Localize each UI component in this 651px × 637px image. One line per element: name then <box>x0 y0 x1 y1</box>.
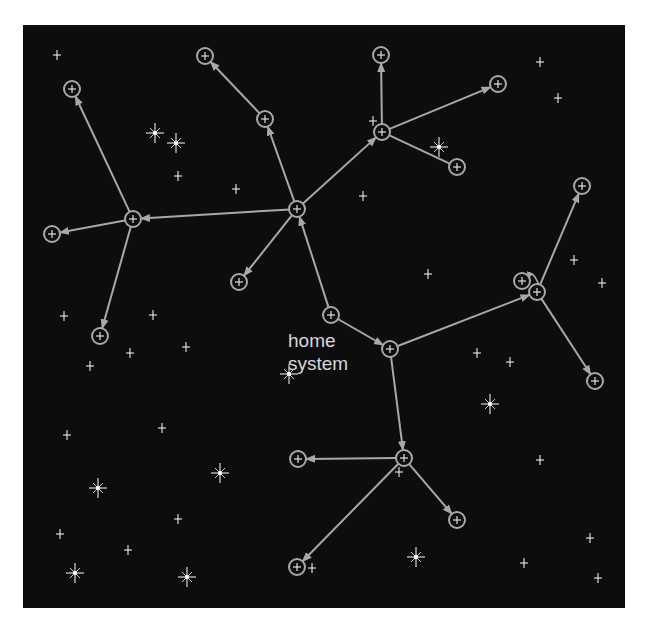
small-star-icon <box>598 278 606 288</box>
route-link-n9-n11 <box>388 87 490 129</box>
route-link-n13-n14 <box>397 295 530 347</box>
system-node[interactable] <box>514 273 530 289</box>
small-star-icon <box>395 467 403 477</box>
bright-star-icon <box>407 547 425 567</box>
route-link-n18-n19 <box>306 458 397 459</box>
small-star-icon <box>424 269 432 279</box>
bright-star-icon <box>167 133 185 153</box>
system-node[interactable] <box>587 373 603 389</box>
small-star-icon <box>536 455 544 465</box>
route-link-n14-n16 <box>540 193 579 285</box>
small-star-icon <box>60 311 68 321</box>
route-link-n1-n2 <box>268 127 295 203</box>
system-node[interactable] <box>382 341 398 357</box>
route-link-n13-n18 <box>391 356 403 450</box>
route-link-n9-n10 <box>381 63 382 125</box>
system-node[interactable] <box>374 124 390 140</box>
small-star-icon <box>594 573 602 583</box>
small-star-icon <box>53 50 61 60</box>
route-link-n18-n20 <box>409 463 452 514</box>
system-node[interactable] <box>92 328 108 344</box>
small-star-icon <box>232 184 240 194</box>
route-link-n14-n17 <box>541 298 591 374</box>
system-node[interactable] <box>290 451 306 467</box>
bright-star-icon <box>146 123 164 143</box>
route-link-n9-n12 <box>388 135 449 164</box>
small-star-icon <box>63 430 71 440</box>
small-star-icon <box>149 310 157 320</box>
home-system-node[interactable] <box>323 307 339 323</box>
system-node[interactable] <box>490 76 506 92</box>
small-star-icon <box>570 255 578 265</box>
route-link-n18-n21 <box>303 463 399 561</box>
star-map-panel: home system <box>23 25 625 608</box>
small-star-icon <box>124 545 132 555</box>
system-node[interactable] <box>44 226 60 242</box>
route-link-n4-n7 <box>102 226 131 329</box>
small-star-icon <box>506 357 514 367</box>
route-link-n1-n4 <box>141 209 290 218</box>
small-star-icon <box>359 191 367 201</box>
route-link-n4-n5 <box>75 96 130 212</box>
system-node[interactable] <box>574 178 590 194</box>
route-link-n4-n6 <box>60 220 126 232</box>
bright-star-icon <box>430 137 448 157</box>
small-star-icon <box>554 93 562 103</box>
small-star-icon <box>369 116 377 126</box>
route-link-n1-n9 <box>302 137 376 204</box>
system-node[interactable] <box>257 111 273 127</box>
route-link-n0-n1 <box>299 217 328 309</box>
bright-star-icon <box>178 567 196 587</box>
system-node[interactable] <box>396 450 412 466</box>
small-star-icon <box>520 558 528 568</box>
home-label-line2: system <box>288 352 348 375</box>
small-star-icon <box>308 563 316 573</box>
small-star-icon <box>586 533 594 543</box>
small-star-icon <box>182 342 190 352</box>
bright-star-icon <box>89 478 107 498</box>
system-node[interactable] <box>125 211 141 227</box>
small-star-icon <box>86 361 94 371</box>
home-label-line1: home <box>288 329 348 352</box>
route-link-n2-n3 <box>211 62 261 114</box>
system-node[interactable] <box>289 201 305 217</box>
small-star-icon <box>158 423 166 433</box>
system-node[interactable] <box>449 159 465 175</box>
system-node[interactable] <box>529 284 545 300</box>
small-star-icon <box>536 57 544 67</box>
system-node[interactable] <box>373 47 389 63</box>
system-node[interactable] <box>231 274 247 290</box>
bright-star-icon <box>66 563 84 583</box>
star-map-canvas <box>23 25 625 608</box>
route-link-n1-n8 <box>244 214 293 275</box>
system-node[interactable] <box>449 512 465 528</box>
bright-star-icon <box>211 463 229 483</box>
bright-star-icon <box>481 394 499 414</box>
small-star-icon <box>56 529 64 539</box>
small-star-icon <box>174 514 182 524</box>
system-node[interactable] <box>64 81 80 97</box>
small-star-icon <box>174 171 182 181</box>
small-star-icon <box>473 348 481 358</box>
system-nodes <box>44 47 603 575</box>
system-node[interactable] <box>197 48 213 64</box>
small-star-icon <box>126 348 134 358</box>
system-node[interactable] <box>289 559 305 575</box>
home-system-label: home system <box>288 329 348 375</box>
